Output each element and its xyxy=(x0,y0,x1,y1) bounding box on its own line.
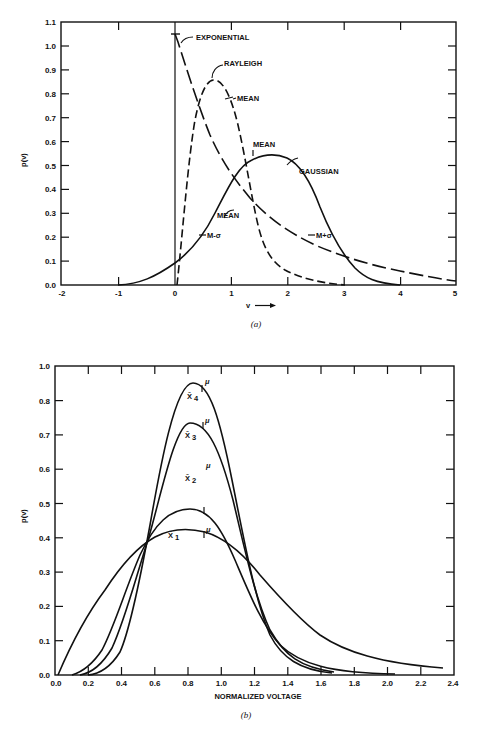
svg-text:5: 5 xyxy=(453,289,458,298)
chart-b: 0.0 0.1 0.2 0.3 0.4 0.5 0.6 0.7 0.8 1.0 … xyxy=(19,362,459,720)
svg-text:0.7: 0.7 xyxy=(45,114,57,123)
curve-exponential xyxy=(175,34,456,281)
svg-text:0.1: 0.1 xyxy=(45,257,57,266)
svg-text:0.5: 0.5 xyxy=(39,500,51,509)
x-axis-label-a: v xyxy=(246,301,251,310)
svg-text:X̄: X̄ xyxy=(168,531,173,540)
svg-text:0.5: 0.5 xyxy=(45,162,57,171)
series-label-x4: X̄ 4 xyxy=(187,392,199,403)
chart-a: 0.0 0.1 0.2 0.3 0.4 0.5 0.6 0.7 0.8 0.9 … xyxy=(19,18,458,329)
y-tick-labels-a: 0.0 0.1 0.2 0.3 0.4 0.5 0.6 0.7 0.8 0.9 … xyxy=(45,18,57,290)
svg-text:1.1: 1.1 xyxy=(45,18,57,27)
svg-text:3: 3 xyxy=(192,433,196,442)
svg-text:0.8: 0.8 xyxy=(182,679,194,688)
svg-text:-1: -1 xyxy=(115,289,123,298)
y-axis-label-a: p(v) xyxy=(19,153,28,167)
svg-text:0.0: 0.0 xyxy=(45,281,57,290)
svg-text:2.2: 2.2 xyxy=(415,679,427,688)
svg-text:3: 3 xyxy=(342,289,347,298)
svg-text:0.4: 0.4 xyxy=(39,534,51,543)
caption-a: (a) xyxy=(251,319,262,329)
x-ticks-b xyxy=(88,366,421,675)
svg-text:1.0: 1.0 xyxy=(216,679,228,688)
svg-text:1.2: 1.2 xyxy=(249,679,261,688)
svg-text:X̄: X̄ xyxy=(187,392,192,401)
x-axis-label-b: NORMALIZED VOLTAGE xyxy=(214,692,301,701)
svg-text:0.8: 0.8 xyxy=(45,90,57,99)
mu-labels: μ μ μ μ xyxy=(204,377,211,534)
curve-gaussian xyxy=(118,155,400,285)
label-gaussian: GAUSSIAN xyxy=(299,167,339,176)
svg-text:1: 1 xyxy=(175,533,179,542)
svg-text:1.0: 1.0 xyxy=(39,362,51,371)
arrow-right-icon xyxy=(255,303,276,308)
label-m-minus-sigma: M-σ xyxy=(207,231,221,240)
svg-text:1.4: 1.4 xyxy=(282,679,294,688)
label-m-plus-sigma: M+σ xyxy=(316,231,332,240)
svg-text:0.4: 0.4 xyxy=(45,185,57,194)
svg-text:-2: -2 xyxy=(58,289,66,298)
y-tick-labels-b: 0.0 0.1 0.2 0.3 0.4 0.5 0.6 0.7 0.8 1.0 xyxy=(39,362,51,680)
svg-text:X̄: X̄ xyxy=(185,431,190,440)
svg-text:0.8: 0.8 xyxy=(39,397,51,406)
svg-text:0.3: 0.3 xyxy=(39,568,51,577)
svg-text:0.7: 0.7 xyxy=(39,431,51,440)
svg-text:μ: μ xyxy=(205,525,211,534)
svg-text:0.3: 0.3 xyxy=(45,209,57,218)
svg-text:0.9: 0.9 xyxy=(45,66,57,75)
svg-text:μ: μ xyxy=(204,377,210,386)
svg-text:X̄: X̄ xyxy=(185,474,190,483)
label-exp-mean: MEAN xyxy=(217,211,239,220)
svg-text:2.4: 2.4 xyxy=(447,679,459,688)
svg-text:μ: μ xyxy=(205,461,211,470)
curve-x1 xyxy=(58,529,443,675)
svg-text:μ: μ xyxy=(204,416,210,425)
mu-marks xyxy=(202,385,204,538)
svg-text:1.0: 1.0 xyxy=(45,42,57,51)
y-ticks-a xyxy=(61,46,456,261)
y-axis-label-b: p(v) xyxy=(19,509,28,523)
svg-text:0.2: 0.2 xyxy=(83,679,95,688)
series-label-x3: X̄ 3 xyxy=(185,431,196,442)
svg-text:0.0: 0.0 xyxy=(39,671,51,680)
svg-text:4: 4 xyxy=(194,394,199,403)
series-label-x2: X̄ 2 xyxy=(185,474,196,485)
series-label-x1: X̄ 1 xyxy=(168,531,179,542)
svg-text:0.6: 0.6 xyxy=(45,138,57,147)
svg-text:0.6: 0.6 xyxy=(149,679,161,688)
rayleigh-mean-mark xyxy=(225,97,233,99)
svg-text:1: 1 xyxy=(229,289,234,298)
svg-text:0.2: 0.2 xyxy=(45,233,57,242)
svg-text:2.0: 2.0 xyxy=(382,679,394,688)
caption-b: (b) xyxy=(241,710,252,720)
svg-text:0: 0 xyxy=(173,289,178,298)
svg-text:0.4: 0.4 xyxy=(116,679,128,688)
svg-text:1.6: 1.6 xyxy=(315,679,327,688)
svg-text:4: 4 xyxy=(398,289,403,298)
svg-text:0.1: 0.1 xyxy=(39,637,51,646)
svg-text:2: 2 xyxy=(192,476,196,485)
plot-frame-b xyxy=(55,366,454,675)
svg-text:0.0: 0.0 xyxy=(50,679,62,688)
svg-text:2: 2 xyxy=(286,289,291,298)
svg-text:0.2: 0.2 xyxy=(39,602,51,611)
x-tick-labels-b: 0.0 0.2 0.4 0.6 0.8 1.0 1.2 1.4 1.6 1.8 … xyxy=(50,679,459,688)
label-gaussian-mean: MEAN xyxy=(253,140,275,149)
svg-text:1.8: 1.8 xyxy=(349,679,361,688)
svg-text:0.6: 0.6 xyxy=(39,465,51,474)
x-tick-labels-a: -2 -1 0 1 2 3 4 5 xyxy=(58,289,457,298)
figure: 0.0 0.1 0.2 0.3 0.4 0.5 0.6 0.7 0.8 0.9 … xyxy=(0,0,479,736)
label-rayleigh-mean: MEAN xyxy=(237,94,259,103)
label-rayleigh: RAYLEIGH xyxy=(224,59,262,68)
curve-rayleigh xyxy=(177,80,345,285)
label-exponential: EXPONENTIAL xyxy=(196,33,250,42)
